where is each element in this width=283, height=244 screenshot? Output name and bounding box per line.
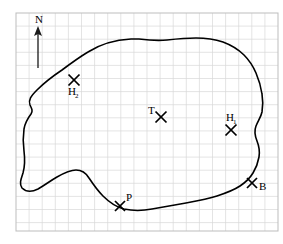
marker-t-label: T (148, 104, 155, 116)
north-label: N (35, 13, 43, 25)
map-svg: N H 2 T H 1 P (0, 0, 283, 244)
marker-h1-subscript: 1 (233, 118, 237, 126)
marker-p-label: P (126, 191, 132, 203)
map-figure: N H 2 T H 1 P (0, 0, 283, 244)
marker-b-label: B (259, 180, 266, 192)
grid-paper (16, 13, 278, 231)
marker-h2-subscript: 2 (75, 92, 79, 100)
